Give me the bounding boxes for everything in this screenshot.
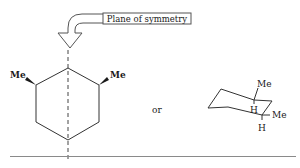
chair-h-label-middle: H [250, 105, 258, 115]
figure-canvas: Plane of symmetry Me Me or Me H Me H [0, 0, 300, 168]
bottom-rule [10, 156, 296, 157]
wedge-bond-right [99, 77, 109, 85]
or-connector: or [152, 105, 162, 115]
callout-label: Plane of symmetry [107, 14, 187, 24]
wedge-bond-left [25, 77, 36, 85]
chair-h-label-bottom: H [258, 123, 266, 133]
plane-of-symmetry-callout: Plane of symmetry [103, 13, 191, 24]
chair-substituent-bonds [254, 88, 270, 120]
me-label-right: Me [110, 70, 126, 80]
chair-cyclohexane-ring [208, 89, 272, 115]
chair-me-label-top: Me [257, 79, 272, 89]
curved-arrow-icon [58, 14, 105, 48]
chair-me-label-right: Me [272, 110, 287, 120]
me-label-left: Me [10, 70, 26, 80]
